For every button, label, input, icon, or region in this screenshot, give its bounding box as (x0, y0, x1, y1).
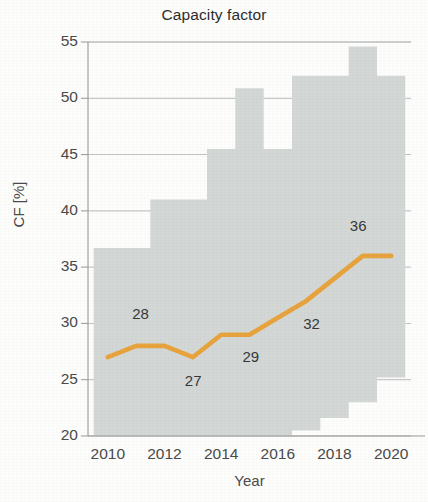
range-band (94, 47, 406, 437)
point-value-label: 29 (243, 348, 260, 365)
point-value-label: 32 (303, 315, 320, 332)
point-value-label: 27 (185, 372, 202, 389)
y-tick-label: 35 (34, 257, 78, 275)
y-tick-label: 40 (34, 201, 78, 219)
x-tick-label: 2012 (135, 445, 195, 463)
y-tick-label: 50 (34, 88, 78, 106)
x-tick-label: 2016 (248, 445, 308, 463)
y-axis-title: CF [%] (10, 165, 27, 245)
y-tick-label: 25 (34, 370, 78, 388)
point-value-label: 28 (132, 305, 149, 322)
y-tick-label: 45 (34, 145, 78, 163)
y-tick-label: 55 (34, 32, 78, 50)
x-tick-label: 2018 (305, 445, 365, 463)
point-value-label: 36 (350, 217, 367, 234)
chart-figure: Capacity factor 5550454035302520 2010201… (0, 0, 428, 502)
x-axis-title: Year (88, 472, 411, 489)
x-tick-label: 2010 (78, 445, 138, 463)
y-tick-label: 20 (34, 426, 78, 444)
y-axis-ticks (81, 42, 88, 436)
x-tick-label: 2014 (191, 445, 251, 463)
x-tick-label: 2020 (361, 445, 421, 463)
y-tick-label: 30 (34, 313, 78, 331)
